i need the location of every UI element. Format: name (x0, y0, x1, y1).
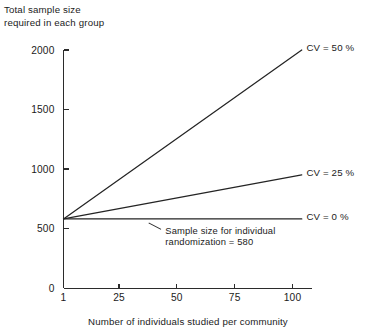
annotation-leader-line (149, 223, 161, 229)
y-tick-label: 1000 (31, 164, 54, 175)
x-tick-label: 25 (113, 292, 125, 303)
series-layer (64, 50, 302, 219)
x-tick-label: 50 (171, 292, 183, 303)
annotation-text-line-1: randomization = 580 (165, 236, 253, 247)
sample-size-line-chart: Total sample size required in each group… (0, 0, 368, 333)
y-tick-label: 0 (49, 283, 55, 294)
series-label-2: CV = 0 % (306, 211, 349, 222)
x-tick-label: 100 (284, 292, 302, 303)
annotation-layer: Sample size for individualrandomization … (149, 223, 275, 247)
series-line-0 (64, 50, 302, 219)
chart-canvas: Total sample size required in each group… (0, 0, 368, 333)
y-axis-title-line-1: Total sample size (4, 4, 81, 15)
y-axis-title-line-2: required in each group (4, 17, 104, 28)
y-axis-ticks: 0500100015002000 (31, 45, 68, 294)
x-axis-ticks: 1255075100 (61, 284, 302, 304)
series-label-0: CV = 50 % (306, 42, 354, 53)
x-tick-label: 1 (61, 292, 67, 303)
y-tick-label: 1500 (31, 104, 54, 115)
y-tick-label: 2000 (31, 45, 54, 56)
x-tick-label: 75 (229, 292, 241, 303)
series-label-1: CV = 25 % (306, 167, 354, 178)
series-line-1 (64, 175, 302, 219)
annotation-text-line-0: Sample size for individual (165, 225, 275, 236)
series-labels: CV = 50 %CV = 25 %CV = 0 % (306, 42, 354, 222)
y-axis-title: Total sample size required in each group (4, 4, 104, 28)
x-axis-label: Number of individuals studied per commun… (88, 316, 288, 327)
y-tick-label: 500 (37, 223, 55, 234)
